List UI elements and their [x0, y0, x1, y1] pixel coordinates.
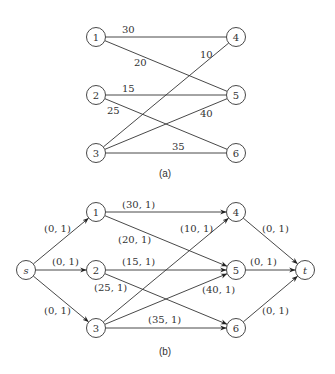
node-1: 1 — [87, 28, 106, 47]
node-5: 5 — [227, 86, 246, 105]
edge-label-3-5: (40, 1) — [202, 284, 235, 295]
node-4: 4 — [227, 203, 246, 222]
edge-label-3-6: (35, 1) — [148, 314, 181, 325]
edge-label-3-4: 10 — [200, 49, 213, 60]
edge-label-2-5: 15 — [122, 83, 135, 94]
node-2: 2 — [87, 261, 106, 280]
edge-label-1-4: (30, 1) — [122, 199, 155, 210]
edge-label-3-6: 35 — [172, 141, 185, 152]
caption-b: (b) — [159, 346, 171, 357]
edge-label-2-6: 25 — [107, 105, 120, 116]
edge-label-s-3: (0, 1) — [44, 305, 71, 316]
node-s: s — [17, 261, 36, 280]
node-label: 1 — [93, 207, 99, 218]
node-label: 4 — [233, 207, 239, 218]
diagram-b-edges — [33, 212, 297, 328]
diagram-a-edge-labels: 30201525104035 — [107, 24, 213, 152]
node-label: 6 — [233, 148, 239, 159]
edge-label-6-t: (0, 1) — [262, 305, 289, 316]
node-label: s — [23, 265, 28, 276]
node-label: 2 — [93, 90, 99, 101]
bipartite-diagrams: 30201525104035 123456 (a) (0, 1)(0, 1)(0… — [0, 0, 335, 374]
edge-label-1-5: 20 — [134, 57, 147, 68]
node-6: 6 — [227, 319, 246, 338]
node-label: 5 — [233, 265, 239, 276]
node-label: 3 — [93, 148, 99, 159]
node-t: t — [296, 261, 315, 280]
edge-label-s-1: (0, 1) — [44, 223, 71, 234]
edge-label-5-t: (0, 1) — [250, 256, 277, 267]
node-1: 1 — [87, 203, 106, 222]
node-2: 2 — [87, 86, 106, 105]
caption-a: (a) — [159, 168, 171, 179]
node-label: 6 — [233, 323, 239, 334]
node-label: 3 — [93, 323, 99, 334]
diagram-b-edge-labels: (0, 1)(0, 1)(0, 1)(30, 1)(20, 1)(15, 1)(… — [44, 199, 289, 325]
node-3: 3 — [87, 144, 106, 163]
node-label: 4 — [233, 32, 239, 43]
node-4: 4 — [227, 28, 246, 47]
edge-label-4-t: (0, 1) — [262, 223, 289, 234]
node-label: 1 — [93, 32, 99, 43]
edge-label-1-4: 30 — [122, 24, 135, 35]
node-label: 5 — [233, 90, 239, 101]
diagram-b-flow-network: (0, 1)(0, 1)(0, 1)(30, 1)(20, 1)(15, 1)(… — [17, 199, 315, 357]
node-3: 3 — [87, 319, 106, 338]
node-label: 2 — [93, 265, 99, 276]
edge-label-2-5: (15, 1) — [122, 256, 155, 267]
edge-label-2-6: (25, 1) — [94, 282, 127, 293]
node-6: 6 — [227, 144, 246, 163]
edge-label-1-5: (20, 1) — [118, 234, 151, 245]
edge-label-3-4: (10, 1) — [180, 223, 213, 234]
edge-label-s-2: (0, 1) — [52, 256, 79, 267]
node-5: 5 — [227, 261, 246, 280]
diagram-a-bipartite-graph: 30201525104035 123456 (a) — [87, 24, 246, 179]
edge-label-3-5: 40 — [200, 108, 213, 119]
